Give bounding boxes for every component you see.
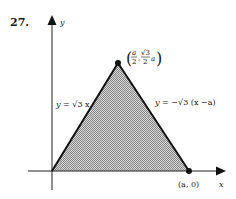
base-point-label: (a, 0)	[178, 180, 199, 189]
svg-text:a: a	[132, 49, 136, 57]
left-line-equation: y = √3 x	[55, 100, 90, 109]
shaded-triangle-region	[52, 63, 189, 171]
apex-point	[115, 60, 121, 66]
problem-number: 27.	[10, 16, 29, 29]
triangle-diagram: 27. x y ( a 2 , √3 2 a )	[0, 0, 236, 199]
apex-label: ( a 2 , √3 2 a )	[126, 49, 162, 68]
svg-text:2: 2	[132, 58, 136, 66]
y-axis-arrow-icon	[48, 15, 57, 25]
right-line-equation: y = −√3 (x −a)	[154, 98, 216, 107]
y-axis-label: y	[59, 18, 65, 27]
svg-text:√3: √3	[141, 49, 150, 57]
svg-text:y = √3 x: y = √3 x	[55, 100, 90, 109]
svg-text:): )	[156, 49, 162, 68]
base-point	[186, 168, 192, 174]
x-axis-label: x	[219, 180, 224, 189]
svg-text:a: a	[151, 55, 155, 63]
svg-text:,: ,	[138, 54, 140, 62]
svg-text:y = −√3 (x −a): y = −√3 (x −a)	[154, 98, 216, 107]
svg-text:2: 2	[143, 58, 147, 66]
x-axis-arrow-icon	[216, 167, 226, 176]
figure: 27. x y ( a 2 , √3 2 a )	[0, 0, 236, 199]
